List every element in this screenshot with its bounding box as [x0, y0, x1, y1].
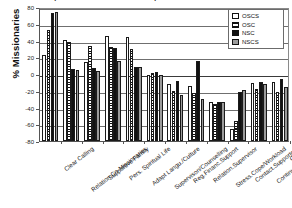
- x-axis-label: Clear Calling: [62, 145, 94, 172]
- bar-osc: [255, 89, 259, 141]
- y-tick-mark: [36, 92, 39, 93]
- legend-swatch-nsc: [232, 30, 239, 36]
- bar-nscs: [180, 95, 184, 141]
- y-tick-label: 20: [12, 55, 34, 61]
- bar-group: [103, 9, 124, 141]
- y-tick-label: 0: [12, 72, 34, 78]
- y-tick-mark: [36, 75, 39, 76]
- chart-title: Reported Reasons for Missionary Attritio…: [40, 0, 240, 1]
- legend-item: OSC: [232, 21, 281, 30]
- y-tick-label: -60: [12, 122, 34, 128]
- bar-oscs: [105, 36, 109, 141]
- bar-group: [186, 9, 207, 141]
- y-tick-label: 40: [12, 39, 34, 45]
- y-tick-mark: [36, 25, 39, 26]
- bar-nscs: [242, 90, 246, 141]
- bar-oscs: [147, 75, 151, 141]
- bar-group: [40, 9, 61, 141]
- x-axis-label: Supervison/Counselling: [173, 145, 229, 191]
- bar-group: [144, 9, 165, 141]
- bar-oscs: [230, 129, 234, 141]
- bar-nscs: [55, 12, 59, 141]
- legend-swatch-nscs: [232, 39, 239, 45]
- y-tick-mark: [36, 8, 39, 9]
- bar-oscs: [63, 40, 67, 141]
- bar-nsc: [238, 92, 242, 141]
- bar-oscs: [188, 86, 192, 141]
- bar-group: [82, 9, 103, 141]
- bar-oscs: [84, 62, 88, 141]
- legend-label-nscs: NSCS: [242, 39, 259, 45]
- bar-nsc: [196, 61, 200, 141]
- bar-nsc: [280, 79, 284, 141]
- bar-nsc: [92, 68, 96, 141]
- bar-nsc: [259, 82, 263, 141]
- bar-nscs: [284, 87, 288, 141]
- bar-nsc: [155, 72, 159, 142]
- bar-osc: [130, 49, 134, 141]
- legend-label-nsc: NSC: [242, 30, 255, 36]
- legend-label-oscs: OSCS: [242, 13, 259, 19]
- bar-oscs: [209, 102, 213, 141]
- legend: OSCS OSC NSC NSCS: [228, 9, 284, 49]
- bar-oscs: [251, 83, 255, 141]
- bar-osc: [47, 30, 51, 141]
- legend-swatch-osc: [232, 22, 239, 28]
- y-tick-label: -40: [12, 106, 34, 112]
- chart-container: Reported Reasons for Missionary Attritio…: [0, 0, 292, 208]
- bar-nscs: [201, 99, 205, 141]
- bar-osc: [276, 92, 280, 141]
- bar-osc: [234, 121, 238, 141]
- bar-oscs: [42, 55, 46, 141]
- bar-nscs: [117, 61, 121, 141]
- bar-group: [165, 9, 186, 141]
- bar-nsc: [113, 48, 117, 141]
- bar-osc: [172, 91, 176, 141]
- y-tick-label: 80: [12, 5, 34, 11]
- bar-nscs: [221, 102, 225, 141]
- legend-swatch-oscs: [232, 13, 239, 19]
- bar-nsc: [51, 13, 55, 141]
- bar-nsc: [134, 67, 138, 141]
- bar-osc: [67, 42, 71, 141]
- bar-nscs: [263, 84, 267, 141]
- x-axis-labels: Clear CallingRelation.Co-MissionariesSup…: [0, 143, 292, 208]
- legend-item: NSCS: [232, 38, 281, 47]
- legend-item: NSC: [232, 29, 281, 38]
- bar-group: [61, 9, 82, 141]
- bar-nsc: [71, 69, 75, 141]
- legend-item: OSCS: [232, 12, 281, 21]
- bar-group: [123, 9, 144, 141]
- bar-osc: [151, 73, 155, 141]
- y-tick-mark: [36, 109, 39, 110]
- bar-osc: [88, 46, 92, 141]
- bar-osc: [109, 47, 113, 141]
- bar-nsc: [217, 102, 221, 141]
- bar-osc: [192, 93, 196, 141]
- y-tick-mark: [36, 58, 39, 59]
- y-tick-label: 60: [12, 22, 34, 28]
- bar-oscs: [126, 37, 130, 141]
- y-tick-mark: [36, 42, 39, 43]
- bar-nscs: [138, 67, 142, 141]
- bar-oscs: [272, 82, 276, 141]
- bar-nsc: [176, 81, 180, 141]
- bar-nscs: [96, 71, 100, 141]
- bar-nscs: [159, 75, 163, 141]
- legend-label-osc: OSC: [242, 22, 255, 28]
- bar-group: [207, 9, 228, 141]
- bar-oscs: [167, 84, 171, 141]
- bar-osc: [213, 104, 217, 141]
- y-tick-label: -20: [12, 89, 34, 95]
- bar-nscs: [76, 70, 80, 141]
- y-tick-mark: [36, 125, 39, 126]
